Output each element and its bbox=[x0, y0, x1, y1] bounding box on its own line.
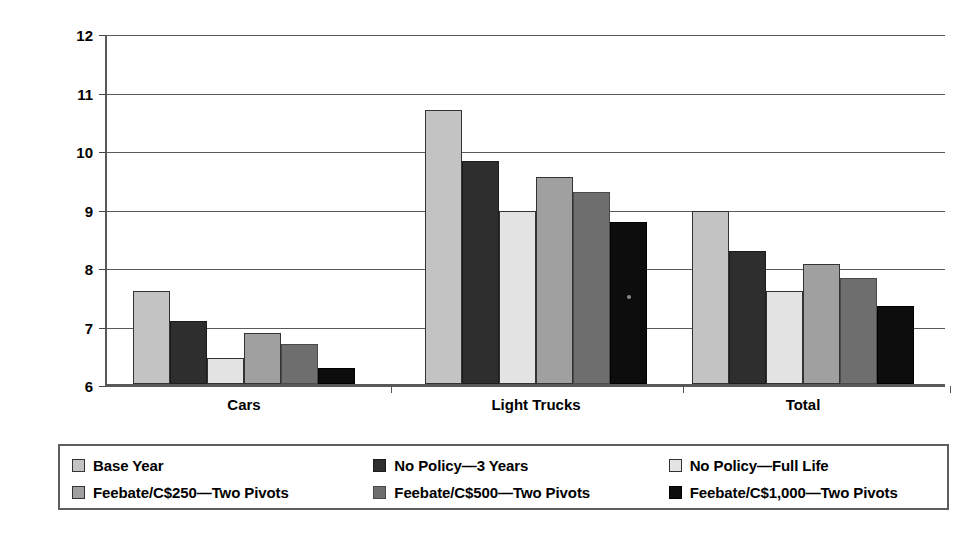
legend-swatch-icon bbox=[373, 459, 386, 472]
legend-label: Feebate/C$250—Two Pivots bbox=[93, 484, 289, 501]
y-tick-label: 8 bbox=[85, 261, 93, 278]
bar[interactable] bbox=[573, 192, 610, 384]
bar[interactable] bbox=[536, 177, 573, 384]
legend-label: Base Year bbox=[93, 457, 164, 474]
legend-item-feebate-250[interactable]: Feebate/C$250—Two Pivots bbox=[60, 484, 361, 501]
bar[interactable] bbox=[766, 291, 803, 384]
category-label: Cars bbox=[227, 396, 260, 413]
legend-item-base-year[interactable]: Base Year bbox=[60, 457, 361, 474]
bar[interactable] bbox=[877, 306, 914, 384]
bar-speck-artifact bbox=[627, 295, 631, 299]
category-tick bbox=[391, 386, 392, 393]
bar-group-cars bbox=[133, 35, 355, 384]
legend-item-no-policy-full-life[interactable]: No Policy—Full Life bbox=[657, 457, 947, 474]
y-tick-mark bbox=[99, 269, 106, 270]
legend-row: Base Year No Policy—3 Years No Policy—Fu… bbox=[60, 452, 947, 479]
plot-area: 1211109876 bbox=[105, 35, 945, 386]
legend-swatch-icon bbox=[72, 459, 85, 472]
bar[interactable] bbox=[207, 358, 244, 384]
legend-label: No Policy—3 Years bbox=[394, 457, 528, 474]
chart-legend: Base Year No Policy—3 Years No Policy—Fu… bbox=[58, 444, 949, 510]
legend-swatch-icon bbox=[669, 459, 682, 472]
bar[interactable] bbox=[133, 291, 170, 384]
y-tick-label: 12 bbox=[76, 27, 93, 44]
category-label: Total bbox=[786, 396, 821, 413]
y-tick-mark bbox=[99, 211, 106, 212]
bar[interactable] bbox=[244, 333, 281, 384]
legend-label: No Policy—Full Life bbox=[690, 457, 829, 474]
bar-chart: Fuel Consumption (L/100km) 1211109876 Ca… bbox=[0, 0, 979, 541]
category-label: Light Trucks bbox=[491, 396, 580, 413]
bar[interactable] bbox=[840, 278, 877, 384]
y-tick-mark bbox=[99, 152, 106, 153]
bar[interactable] bbox=[170, 321, 207, 384]
legend-label: Feebate/C$1,000—Two Pivots bbox=[690, 484, 898, 501]
gridline bbox=[105, 386, 945, 387]
bar[interactable] bbox=[803, 264, 840, 384]
y-tick-label: 6 bbox=[85, 378, 93, 395]
bar[interactable] bbox=[462, 161, 499, 384]
legend-item-no-policy-3-years[interactable]: No Policy—3 Years bbox=[361, 457, 656, 474]
y-tick-label: 7 bbox=[85, 319, 93, 336]
bar[interactable] bbox=[499, 211, 536, 385]
y-tick-label: 11 bbox=[77, 85, 93, 102]
legend-swatch-icon bbox=[669, 486, 682, 499]
legend-item-feebate-1000[interactable]: Feebate/C$1,000—Two Pivots bbox=[657, 484, 947, 501]
legend-label: Feebate/C$500—Two Pivots bbox=[394, 484, 590, 501]
bar[interactable] bbox=[692, 211, 729, 384]
category-tick bbox=[683, 386, 684, 393]
bar[interactable] bbox=[729, 251, 766, 384]
bar[interactable] bbox=[425, 110, 462, 384]
legend-swatch-icon bbox=[72, 486, 85, 499]
legend-swatch-icon bbox=[373, 486, 386, 499]
y-tick-mark bbox=[99, 35, 106, 36]
bar[interactable] bbox=[281, 344, 318, 384]
bar[interactable] bbox=[610, 222, 647, 384]
y-tick-mark bbox=[99, 386, 106, 387]
y-tick-label: 10 bbox=[76, 144, 93, 161]
legend-row: Feebate/C$250—Two Pivots Feebate/C$500—T… bbox=[60, 479, 947, 506]
legend-item-feebate-500[interactable]: Feebate/C$500—Two Pivots bbox=[361, 484, 656, 501]
y-tick-mark bbox=[99, 328, 106, 329]
y-tick-mark bbox=[99, 94, 106, 95]
bar-group-light-trucks bbox=[425, 35, 647, 384]
bar[interactable] bbox=[318, 368, 355, 384]
category-tick bbox=[950, 386, 951, 393]
bar-group-total bbox=[692, 35, 914, 384]
y-tick-label: 9 bbox=[85, 202, 93, 219]
